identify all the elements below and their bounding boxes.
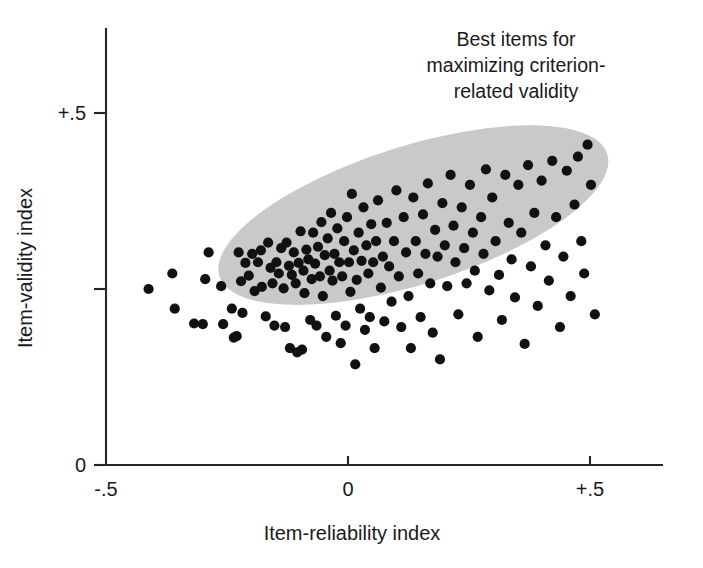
- data-point: [289, 247, 299, 257]
- data-point: [573, 152, 583, 162]
- data-point: [481, 164, 491, 174]
- data-point: [465, 180, 475, 190]
- data-point: [473, 332, 483, 342]
- data-point: [408, 192, 418, 202]
- data-point: [284, 261, 294, 271]
- data-point: [551, 212, 561, 222]
- data-point: [389, 236, 399, 246]
- data-point: [416, 312, 426, 322]
- data-point: [386, 297, 396, 307]
- data-point: [370, 343, 380, 353]
- data-point: [510, 292, 520, 302]
- callout-line-1: Best items for: [456, 28, 576, 50]
- data-point: [378, 252, 388, 262]
- data-point: [579, 268, 589, 278]
- data-point: [566, 291, 576, 301]
- x-axis-tick-label: -.5: [94, 478, 117, 500]
- data-point: [269, 321, 279, 331]
- data-point: [200, 274, 210, 284]
- data-point: [143, 284, 153, 294]
- data-point: [382, 218, 392, 228]
- data-point: [310, 259, 320, 269]
- data-point: [232, 331, 242, 341]
- chart-canvas: 0+.5 -.50+.5 Item-reliability index Item…: [0, 0, 703, 568]
- data-point: [586, 180, 596, 190]
- scatter-plot-figure: 0+.5 -.50+.5 Item-reliability index Item…: [0, 0, 703, 568]
- data-point: [555, 322, 565, 332]
- data-point: [263, 237, 273, 247]
- data-point: [450, 257, 460, 267]
- data-point: [311, 321, 321, 331]
- data-point: [391, 185, 401, 195]
- data-point: [267, 278, 277, 288]
- data-point: [352, 275, 362, 285]
- data-point: [484, 285, 494, 295]
- data-point: [418, 209, 428, 219]
- data-point: [247, 249, 257, 259]
- data-point: [216, 281, 226, 291]
- data-point: [500, 170, 510, 180]
- data-point: [420, 249, 430, 259]
- data-point: [373, 195, 383, 205]
- data-point: [327, 275, 337, 285]
- data-point: [321, 332, 331, 342]
- data-point: [396, 322, 406, 332]
- data-point: [337, 271, 347, 281]
- callout-line-3: related validity: [454, 80, 579, 102]
- x-axis-title: Item-reliability index: [264, 522, 441, 544]
- data-point: [299, 288, 309, 298]
- data-point: [295, 226, 305, 236]
- data-point: [339, 236, 349, 246]
- data-point: [468, 228, 478, 238]
- data-point: [425, 278, 435, 288]
- data-point: [442, 281, 452, 291]
- data-point: [435, 354, 445, 364]
- data-point: [430, 225, 440, 235]
- data-point: [342, 212, 352, 222]
- data-point: [376, 282, 386, 292]
- data-point: [529, 208, 539, 218]
- data-point: [218, 319, 228, 329]
- data-point: [537, 175, 547, 185]
- data-point: [344, 257, 354, 267]
- data-point: [360, 325, 370, 335]
- data-point: [403, 291, 413, 301]
- data-point: [167, 268, 177, 278]
- data-point: [280, 322, 290, 332]
- x-axis-tick-label: 0: [342, 478, 353, 500]
- data-point: [356, 256, 366, 266]
- data-point: [237, 308, 247, 318]
- data-point: [355, 304, 365, 314]
- data-point: [256, 245, 266, 255]
- data-point: [491, 236, 501, 246]
- data-point: [350, 359, 360, 369]
- y-axis-tick-label: +.5: [58, 102, 86, 124]
- data-point: [274, 268, 284, 278]
- data-point: [365, 312, 375, 322]
- y-axis-title: Item-validity index: [14, 188, 36, 348]
- data-point: [440, 240, 450, 250]
- data-point: [334, 257, 344, 267]
- best-items-callout: Best items for maximizing criterion- rel…: [427, 28, 606, 102]
- data-point: [331, 311, 341, 321]
- data-point: [576, 236, 586, 246]
- data-point: [401, 247, 411, 257]
- data-point: [301, 244, 311, 254]
- data-point: [478, 249, 488, 259]
- data-point: [562, 166, 572, 176]
- data-point: [520, 339, 530, 349]
- data-point: [497, 315, 507, 325]
- data-point: [297, 344, 307, 354]
- data-point: [406, 343, 416, 353]
- data-point: [487, 192, 497, 202]
- y-axis-ticks-group: 0+.5: [58, 102, 106, 476]
- data-point: [227, 304, 237, 314]
- data-point: [298, 266, 308, 276]
- data-point: [413, 268, 423, 278]
- data-point: [371, 236, 381, 246]
- data-point: [544, 275, 554, 285]
- data-point: [234, 247, 244, 257]
- best-items-region-group: [199, 88, 628, 342]
- data-point: [320, 250, 330, 260]
- data-point: [261, 311, 271, 321]
